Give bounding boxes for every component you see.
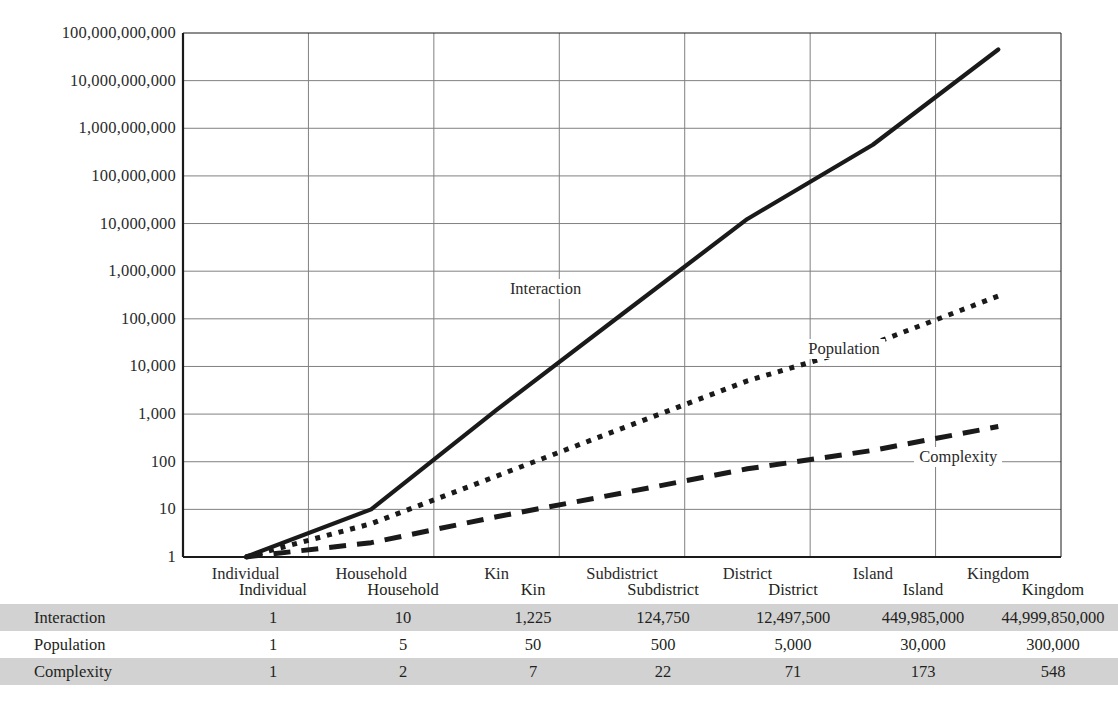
annotation-complexity: Complexity: [914, 447, 1002, 467]
table-cell: 1,225: [468, 604, 598, 631]
axis-lines: [183, 33, 1061, 557]
values-table: IndividualHouseholdKinSubdistrictDistric…: [0, 575, 1118, 685]
table-column-header-island: Island: [858, 575, 988, 604]
table-cell: 30,000: [858, 631, 988, 658]
annotation-population: Population: [803, 339, 885, 359]
table-cell: 124,750: [598, 604, 728, 631]
table-cell: 500: [598, 631, 728, 658]
chart-area: 100,000,000,00010,000,000,0001,000,000,0…: [0, 0, 1101, 575]
table-cell: 2: [338, 658, 468, 685]
table-column-header-kingdom: Kingdom: [988, 575, 1118, 604]
table-row-label-population: Population: [0, 631, 208, 658]
series-line-population: [246, 296, 999, 557]
table-column-header-district: District: [728, 575, 858, 604]
table-row-label-complexity: Complexity: [0, 658, 208, 685]
table-cell: 71: [728, 658, 858, 685]
table-cell: 22: [598, 658, 728, 685]
table-row: Interaction1101,225124,75012,497,500449,…: [0, 604, 1118, 631]
table-corner-cell: [0, 575, 208, 604]
table-cell: 1: [208, 631, 338, 658]
table-column-header-individual: Individual: [208, 575, 338, 604]
table-cell: 5,000: [728, 631, 858, 658]
table-cell: 449,985,000: [858, 604, 988, 631]
series-line-interaction: [246, 50, 999, 557]
table-column-header-kin: Kin: [468, 575, 598, 604]
table-row-label-interaction: Interaction: [0, 604, 208, 631]
table-header-row: IndividualHouseholdKinSubdistrictDistric…: [0, 575, 1118, 604]
table-cell: 12,497,500: [728, 604, 858, 631]
grid-lines: [183, 33, 1061, 557]
table-row: Population15505005,00030,000300,000: [0, 631, 1118, 658]
table-cell: 300,000: [988, 631, 1118, 658]
table-cell: 1: [208, 604, 338, 631]
table-body: Interaction1101,225124,75012,497,500449,…: [0, 604, 1118, 685]
data-table: IndividualHouseholdKinSubdistrictDistric…: [0, 575, 1101, 685]
table-column-header-household: Household: [338, 575, 468, 604]
table-head: IndividualHouseholdKinSubdistrictDistric…: [0, 575, 1118, 604]
table-cell: 548: [988, 658, 1118, 685]
table-cell: 1: [208, 658, 338, 685]
series-lines: [246, 50, 999, 557]
series-line-complexity: [246, 427, 999, 557]
table-cell: 44,999,850,000: [988, 604, 1118, 631]
table-cell: 7: [468, 658, 598, 685]
annotation-interaction: Interaction: [505, 279, 586, 299]
table-cell: 173: [858, 658, 988, 685]
table-column-header-subdistrict: Subdistrict: [598, 575, 728, 604]
table-cell: 50: [468, 631, 598, 658]
table-cell: 5: [338, 631, 468, 658]
table-cell: 10: [338, 604, 468, 631]
table-row: Complexity1272271173548: [0, 658, 1118, 685]
